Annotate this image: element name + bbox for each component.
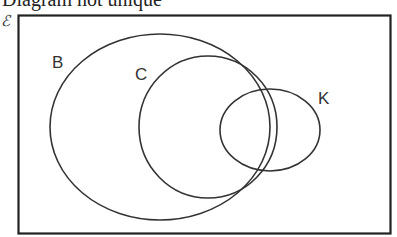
set-c-ellipse — [139, 56, 277, 198]
set-b-label: B — [52, 53, 63, 72]
venn-diagram: B C K — [0, 0, 397, 237]
set-k-label: K — [318, 89, 330, 108]
set-c-label: C — [135, 65, 147, 84]
universal-set-frame — [19, 16, 391, 234]
